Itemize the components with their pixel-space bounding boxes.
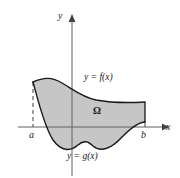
figure-region-between-curves: y x a b y = f(x) y = g(x) Ω	[0, 0, 180, 178]
label-region-omega: Ω	[93, 106, 101, 116]
label-upper-curve-equation: y = f(x)	[84, 73, 113, 83]
y-axis-arrowhead	[69, 14, 76, 22]
label-upper-bound-b: b	[141, 130, 146, 140]
shaded-region-omega	[33, 78, 145, 149]
label-lower-bound-a: a	[29, 130, 34, 140]
label-lower-curve-equation: y = g(x)	[67, 152, 98, 162]
x-axis-label: x	[166, 122, 170, 132]
y-axis-label: y	[58, 11, 62, 21]
